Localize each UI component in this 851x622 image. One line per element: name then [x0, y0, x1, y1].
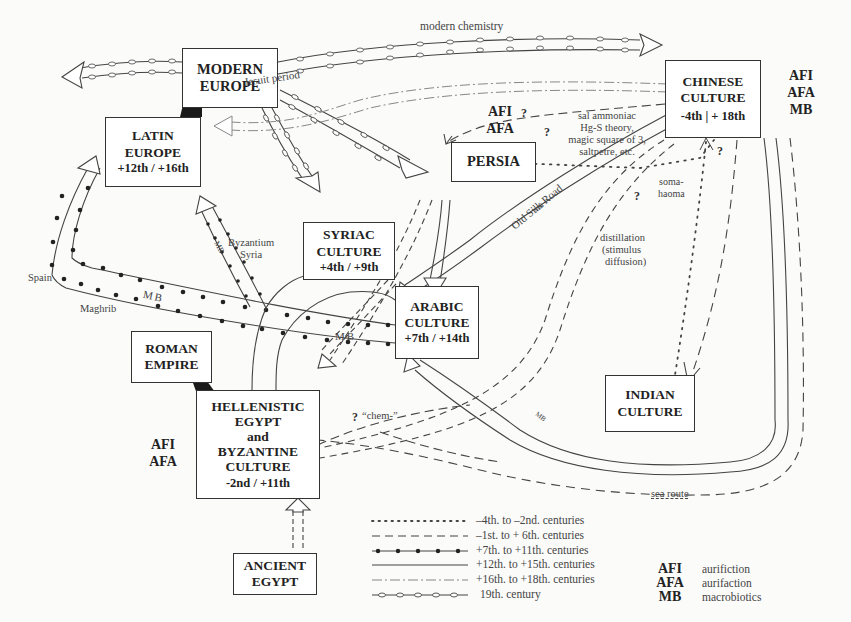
node-indian-culture[interactable]: INDIAN CULTURE	[605, 375, 695, 432]
legend-abbr-mb: MB	[650, 589, 690, 605]
node-chinese-culture[interactable]: CHINESE CULTURE -4th | + 18th	[665, 60, 761, 138]
legend-def-aurifiction: aurifiction	[702, 563, 750, 575]
label-maghrib: Maghrib	[80, 303, 116, 315]
legend-period-4: +12th. to +15th. centuries	[476, 558, 595, 570]
node-roman-empire[interactable]: ROMAN EMPIRE	[131, 331, 212, 383]
arrow-persia-to-arabic	[424, 200, 450, 296]
arrow-modern-europe-to-persia	[280, 90, 428, 178]
legend-period-2: –1st. to + 6th. centuries	[476, 529, 584, 541]
node-persia[interactable]: PERSIA	[451, 142, 536, 182]
node-hellenistic-egypt[interactable]: HELLENISTIC EGYPT and BYZANTINE CULTURE …	[196, 390, 320, 499]
node-arabic-culture[interactable]: ARABIC CULTURE +7th / +14th	[395, 286, 479, 359]
legend-lines	[372, 521, 468, 597]
label-sea-route: sea route	[651, 488, 689, 500]
label-spain: Spain	[28, 272, 52, 284]
node-syriac-culture[interactable]: SYRIAC CULTURE +4th / +9th	[303, 222, 395, 280]
joint-modern-latin	[180, 108, 202, 117]
tags-hellenistic: AFI AFA	[143, 437, 183, 471]
question-mark-chem: ?	[352, 410, 358, 425]
question-mark-persia-top: ?	[521, 106, 527, 121]
label-chem: “chem-”	[362, 410, 398, 422]
question-mark-chinese: ?	[717, 144, 723, 159]
node-ancient-egypt[interactable]: ANCIENT EGYPT	[233, 553, 317, 595]
question-mark-distillation: ?	[634, 189, 640, 204]
label-byzantium-syria: Byzantium Syria	[228, 237, 274, 261]
legend-period-5: +16th. to +18th. centuries	[476, 573, 595, 585]
label-distillation: distillation (stimulus diffusion)	[600, 232, 646, 268]
legend-def-aurifaction: aurifaction	[702, 577, 752, 589]
tags-chinese: AFI AFA MB	[780, 68, 822, 118]
tags-persia: AFI AFA	[482, 104, 518, 138]
question-mark-persia-arrow: ?	[544, 125, 550, 140]
label-soma-haoma: soma- haoma	[658, 176, 685, 199]
arrow-modern-europe-west	[62, 59, 182, 88]
label-mb-byzantium: MB	[212, 240, 226, 255]
arrow-ancient-to-hellenistic	[286, 498, 310, 548]
node-latin-europe[interactable]: LATIN EUROPE +12th / +16th	[105, 117, 201, 187]
legend-def-macrobiotics: macrobiotics	[702, 591, 761, 603]
label-modern-chemistry: modern chemistry	[420, 20, 503, 33]
label-transfers: sal ammoniac Hg-S theory, magic square o…	[552, 110, 662, 158]
arrow-modern-chemistry-east	[278, 34, 662, 74]
legend-period-3: +7th. to +11th. centuries	[476, 544, 589, 556]
legend-period-6: 19th. century	[480, 588, 541, 600]
label-mb-maghrib: MB	[335, 330, 356, 343]
label-mb-sea: MB	[534, 410, 548, 423]
legend-period-1: –4th. to –2nd. centuries	[476, 514, 584, 526]
